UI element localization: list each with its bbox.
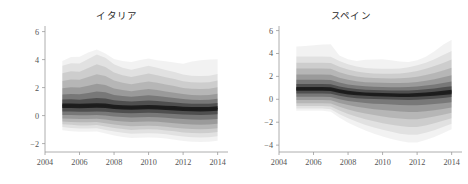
x-tick-label: 2006 xyxy=(71,158,87,167)
y-tick-label: 6 xyxy=(269,27,273,36)
x-tick-label: 2008 xyxy=(340,158,356,167)
x-tick-label: 2012 xyxy=(175,158,191,167)
panel-italy: イタリア −20246200420062008201020122014 xyxy=(0,0,234,184)
y-tick-label: 0 xyxy=(35,112,39,121)
x-tick-label: 2012 xyxy=(409,158,425,167)
density-bands xyxy=(62,50,217,142)
x-tick-label: 2010 xyxy=(374,158,390,167)
x-tick-label: 2004 xyxy=(37,158,53,167)
panel-spain: スペイン −4−20246200420062008201020122014 xyxy=(234,0,468,184)
y-tick-label: 0 xyxy=(269,95,273,104)
plot-area-spain: −4−20246200420062008201020122014 xyxy=(234,0,468,184)
x-tick-label: 2006 xyxy=(305,158,321,167)
x-tick-label: 2014 xyxy=(443,158,459,167)
y-tick-label: 6 xyxy=(35,28,39,37)
y-tick-label: −2 xyxy=(264,118,273,127)
plot-area-italy: −20246200420062008201020122014 xyxy=(0,0,234,184)
y-tick-label: 4 xyxy=(269,49,273,58)
y-tick-label: 2 xyxy=(269,72,273,81)
y-tick-label: −4 xyxy=(264,141,273,150)
fan-chart-figure: イタリア −20246200420062008201020122014 スペイン… xyxy=(0,0,468,184)
y-tick-label: 2 xyxy=(35,84,39,93)
x-tick-label: 2014 xyxy=(209,158,225,167)
x-tick-label: 2008 xyxy=(106,158,122,167)
density-bands xyxy=(296,40,451,143)
y-tick-label: −2 xyxy=(30,140,39,149)
x-tick-label: 2010 xyxy=(140,158,156,167)
x-tick-label: 2004 xyxy=(271,158,287,167)
y-tick-label: 4 xyxy=(35,56,39,65)
